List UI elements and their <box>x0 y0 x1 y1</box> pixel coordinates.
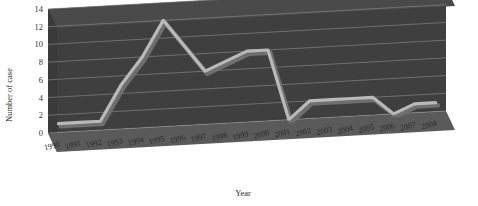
y-axis-tick-label: 12 <box>35 22 44 32</box>
line-chart-3d: 02468101214 1990199119921993199419951996… <box>0 0 478 206</box>
x-axis-title: Year <box>235 188 251 198</box>
y-axis-tick-labels: 02468101214 <box>35 4 44 138</box>
y-axis-title: Number of case <box>4 68 14 122</box>
left-side-face <box>48 9 57 152</box>
y-axis-tick-label: 2 <box>39 110 43 120</box>
y-axis-tick-label: 8 <box>39 57 43 67</box>
y-axis-tick-label: 10 <box>35 39 44 49</box>
y-axis-tick-label: 6 <box>39 75 43 85</box>
y-axis-tick-label: 0 <box>39 128 43 138</box>
y-axis-tick-label: 4 <box>39 93 44 103</box>
chart-container: 02468101214 1990199119921993199419951996… <box>0 0 478 206</box>
y-axis-tick-label: 14 <box>35 4 44 14</box>
